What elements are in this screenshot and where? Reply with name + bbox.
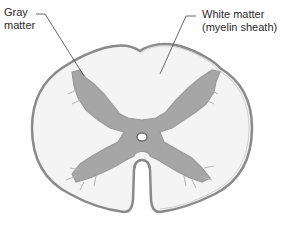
white-matter-label-line1: White matter: [202, 8, 277, 21]
central-canal: [137, 133, 147, 141]
spinal-cord-illustration: [0, 0, 284, 231]
gray-matter-label-line2: matter: [4, 19, 35, 32]
gray-matter-label: Gray matter: [4, 6, 35, 32]
white-matter-label: White matter (myelin sheath): [202, 8, 277, 34]
spinal-cord-diagram: Gray matter White matter (myelin sheath): [0, 0, 284, 231]
gray-matter-label-line1: Gray: [4, 6, 35, 19]
white-matter-label-line2: (myelin sheath): [202, 21, 277, 34]
